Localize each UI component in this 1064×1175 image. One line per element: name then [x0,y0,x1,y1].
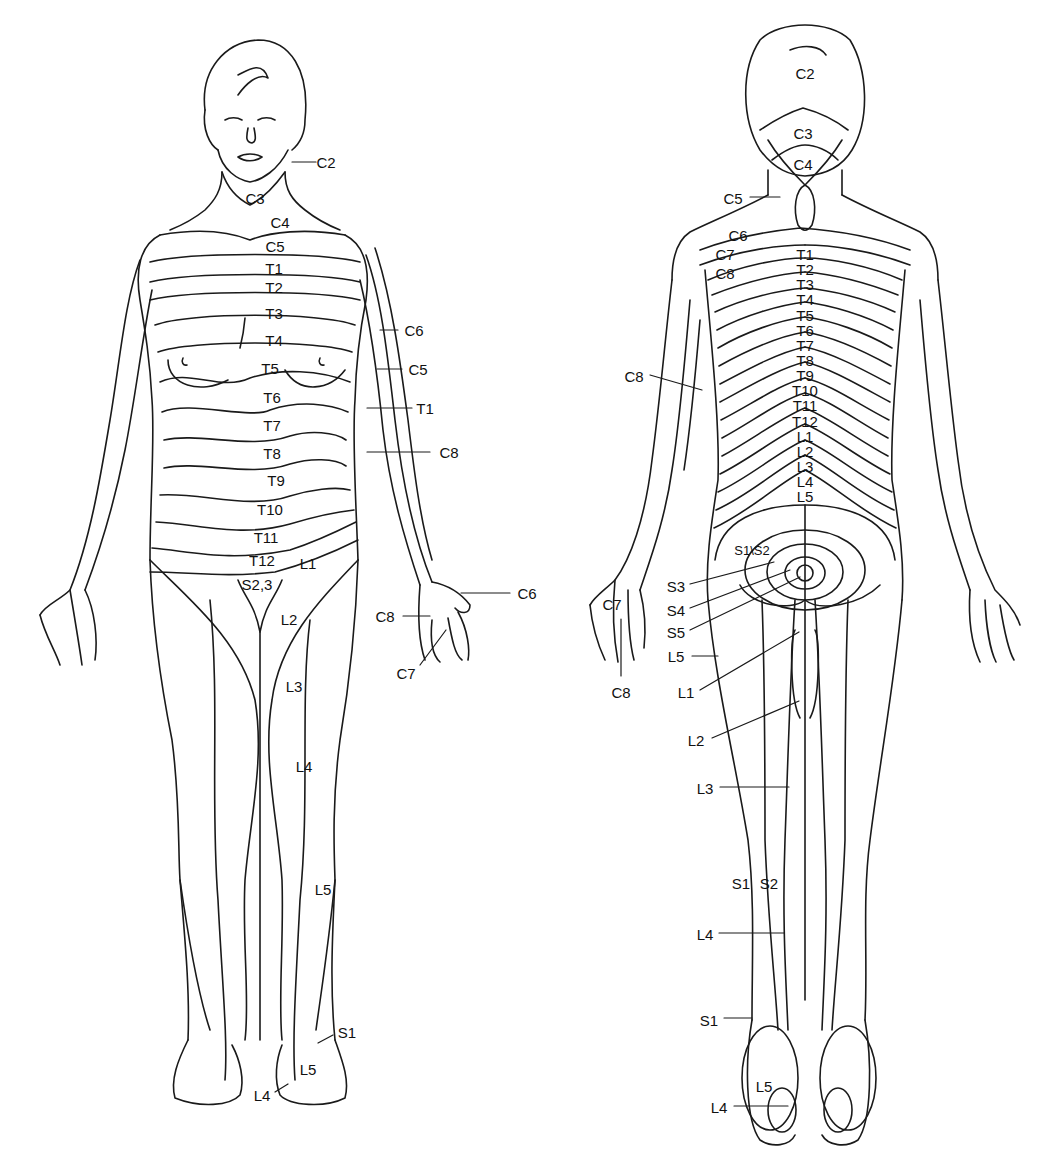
anterior-dermatome-label-c5: C5 [408,362,427,377]
posterior-dermatome-label-t1: T1 [796,247,814,262]
leader-line [420,630,446,665]
posterior-dermatome-label-l3: L3 [697,781,714,796]
anterior-dermatome-label-t11: T11 [254,530,279,545]
posterior-dermatome-label-l2: L2 [797,444,814,459]
posterior-dermatome-label-t2: T2 [796,262,814,277]
posterior-dermatome-label-l5: L5 [797,489,814,504]
anterior-dermatome-label-c2: C2 [316,155,335,170]
posterior-dermatome-label-l4: L4 [711,1100,728,1115]
anterior-dermatome-label-c6: C6 [517,586,536,601]
leader-line [318,1035,333,1043]
leader-line [712,701,799,738]
anterior-dermatome-label-t9: T9 [267,473,285,488]
posterior-dermatome-label-s1: S1 [700,1013,718,1028]
posterior-dermatome-label-c4: C4 [793,157,812,172]
posterior-dermatome-label-c8: C8 [624,369,643,384]
posterior-dermatome-label-c2: C2 [795,66,814,81]
anterior-dermatome-label-t6: T6 [263,390,281,405]
anterior-dermatome-label-l4: L4 [254,1088,271,1103]
posterior-dermatome-label-c8: C8 [715,266,734,281]
leader-line [700,632,799,690]
posterior-dermatome-label-s5: S5 [667,625,685,640]
posterior-dermatome-label-c7: C7 [715,247,734,262]
posterior-dermatome-label-t4: T4 [796,292,814,307]
anterior-dermatome-label-l1: L1 [300,556,317,571]
posterior-dermatome-label-c3: C3 [793,126,812,141]
leader-line [650,375,702,390]
posterior-dermatome-label-s1: S1 [732,876,750,891]
posterior-dermatome-label-t11: T11 [793,398,818,413]
leader-line [275,1084,288,1092]
anterior-dermatome-label-t1: T1 [265,261,283,276]
posterior-dermatome-label-l4: L4 [697,927,714,942]
anterior-dermatome-label-t10: T10 [257,502,283,517]
dermatome-diagram: C2C3C4C5T1T2T3T4T5T6T7T8T9T10T11T12L1S2,… [0,0,1064,1175]
posterior-dermatome-label-l5: L5 [756,1079,773,1094]
posterior-dermatome-label-t3: T3 [796,277,814,292]
posterior-dermatome-label-t12: T12 [792,414,818,429]
posterior-dermatome-label-s4: S4 [667,603,685,618]
posterior-dermatome-label-l2: L2 [688,733,705,748]
anterior-dermatome-label-t7: T7 [263,418,281,433]
anterior-dermatome-label-t5: T5 [261,361,279,376]
posterior-dermatome-label-c6: C6 [728,228,747,243]
posterior-dermatome-label-c8: C8 [611,685,630,700]
leader-line [690,577,800,630]
anterior-dermatome-label-l4: L4 [296,759,313,774]
posterior-dermatome-label-l1: L1 [797,429,814,444]
anterior-dermatome-label-c3: C3 [245,191,264,206]
anterior-dermatome-label-t12: T12 [249,553,275,568]
anterior-dermatome-label-c4: C4 [270,215,289,230]
posterior-dermatome-label-t8: T8 [796,353,814,368]
posterior-dermatome-label-l3: L3 [797,459,814,474]
posterior-dermatome-label-s1-s2: S1\S2 [734,544,769,557]
anterior-dermatome-label-l5: L5 [300,1062,317,1077]
anterior-dermatome-label-t1: T1 [416,401,434,416]
posterior-dermatome-label-c7: C7 [602,597,621,612]
anterior-dermatome-label-c6: C6 [404,323,423,338]
posterior-dermatome-label-l5: L5 [668,649,685,664]
anterior-dermatome-label-c5: C5 [265,239,284,254]
anterior-dermatome-label-t8: T8 [263,446,281,461]
posterior-dermatome-label-c5: C5 [723,191,742,206]
posterior-dermatome-label-l4: L4 [797,474,814,489]
anterior-dermatome-label-s1: S1 [338,1025,356,1040]
posterior-dermatome-label-t7: T7 [796,338,814,353]
posterior-dermatome-label-l1: L1 [678,685,695,700]
posterior-dermatome-label-t9: T9 [796,368,814,383]
anterior-dermatome-label-t3: T3 [265,306,283,321]
posterior-dermatome-label-s2: S2 [760,876,778,891]
posterior-dermatome-label-t10: T10 [792,383,818,398]
anterior-dermatome-label-c7: C7 [396,666,415,681]
posterior-dermatome-label-t5: T5 [796,308,814,323]
anterior-dermatome-label-t4: T4 [265,333,283,348]
anterior-dermatome-label-c8: C8 [375,609,394,624]
anterior-dermatome-label-c8: C8 [439,445,458,460]
anterior-dermatome-label-l2: L2 [281,612,298,627]
anterior-dermatome-label-t2: T2 [265,280,283,295]
posterior-dermatome-label-t6: T6 [796,323,814,338]
anterior-dermatome-label-s2-3: S2,3 [242,577,273,592]
posterior-dermatome-label-s3: S3 [667,579,685,594]
anterior-dermatome-label-l5: L5 [315,882,332,897]
anterior-dermatome-label-l3: L3 [286,679,303,694]
